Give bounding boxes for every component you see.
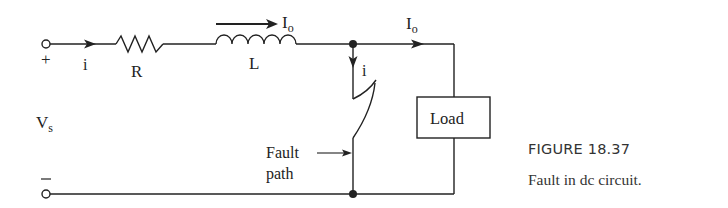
source-voltage-label: Vs <box>36 113 53 135</box>
figure-number: FIGURE 18.37 <box>528 141 630 157</box>
source-current-label: i <box>83 56 88 73</box>
inductor-label: L <box>249 54 259 73</box>
fault-arc <box>353 83 375 138</box>
resistor-label: R <box>131 62 143 81</box>
negative-terminal <box>42 190 50 198</box>
inductor-current-label: Io <box>282 13 294 35</box>
fault-current-label: i <box>362 62 367 79</box>
plus-label: + <box>41 50 51 69</box>
junction-node-top <box>349 40 357 48</box>
figure-caption: Fault in dc circuit. <box>528 171 642 189</box>
resistor-R <box>116 36 163 52</box>
inductor-L <box>216 35 296 44</box>
fault-path-label-line1: Fault <box>266 144 299 161</box>
load-current-label: Io <box>406 14 418 36</box>
load-label: Load <box>430 109 465 128</box>
junction-node-bottom <box>349 190 357 198</box>
fault-path-label-line2: path <box>266 165 294 183</box>
positive-terminal <box>42 40 50 48</box>
